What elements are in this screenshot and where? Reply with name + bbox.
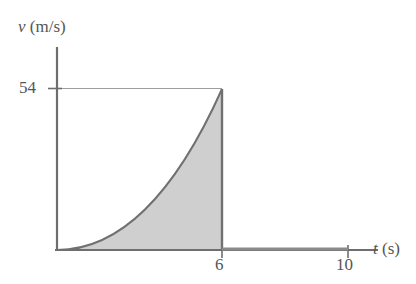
y-tick-label-54: 54 <box>19 79 36 96</box>
plot-canvas <box>0 0 416 284</box>
y-axis-label: v (m/s) <box>18 18 66 35</box>
x-axis-unit: (s) <box>382 239 400 258</box>
velocity-curve-fill <box>57 89 222 250</box>
x-axis-label: t (s) <box>373 240 400 257</box>
x-tick-label-6: 6 <box>215 256 224 273</box>
velocity-time-graph-figure: v (m/s) t (s) 54 6 10 <box>0 0 416 284</box>
y-axis-unit: (m/s) <box>30 17 66 36</box>
x-tick-label-10: 10 <box>336 256 353 273</box>
y-axis-symbol: v <box>18 17 26 36</box>
